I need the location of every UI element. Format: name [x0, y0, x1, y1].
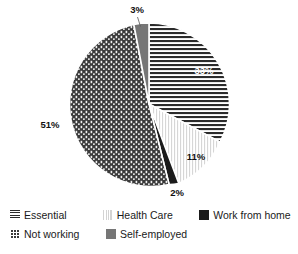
legend-row-2: Not working Self-employed	[10, 224, 292, 243]
legend-label-self-employed: Self-employed	[120, 228, 187, 240]
solid-dark-swatch-icon	[199, 210, 209, 220]
legend-item-essential[interactable]: Essential	[10, 205, 103, 224]
horizontal-lines-swatch-icon	[10, 210, 20, 220]
legend-item-self-employed[interactable]: Self-employed	[106, 224, 206, 243]
legend-item-work-from-home[interactable]: Work from home	[199, 205, 292, 224]
pie-svg: 33% 11% 2% 51% 3%	[0, 0, 298, 200]
pie-label-not-working: 51%	[40, 119, 60, 130]
pie-label-essential: 33%	[194, 65, 214, 76]
legend-label-essential: Essential	[24, 209, 67, 221]
pie-label-self-employed: 3%	[130, 4, 144, 15]
legend-item-not-working[interactable]: Not working	[10, 224, 106, 243]
legend-label-not-working: Not working	[24, 228, 79, 240]
pie-chart-figure: 33% 11% 2% 51% 3% Essential Health Care …	[0, 0, 298, 254]
pie-label-work-from-home: 2%	[170, 187, 184, 198]
legend-item-health-care[interactable]: Health Care	[103, 205, 200, 224]
vertical-lines-swatch-icon	[103, 210, 113, 220]
pie-slices	[69, 23, 229, 186]
chart-legend: Essential Health Care Work from home Not…	[0, 203, 298, 247]
legend-row-1: Essential Health Care Work from home	[10, 205, 292, 224]
pie-plot-area: 33% 11% 2% 51% 3%	[0, 0, 298, 200]
solid-gray-swatch-icon	[106, 229, 116, 239]
legend-label-health-care: Health Care	[117, 209, 173, 221]
dotted-swatch-icon	[10, 229, 20, 239]
pie-label-health-care: 11%	[187, 151, 206, 162]
legend-label-work-from-home: Work from home	[213, 209, 290, 221]
